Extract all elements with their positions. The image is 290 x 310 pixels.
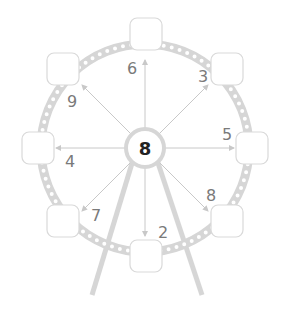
spoke-label-down-left: 7 — [91, 206, 101, 225]
spoke-label-right: 5 — [222, 125, 232, 144]
spoke-label-down-right: 8 — [206, 186, 216, 205]
spoke-label-up-right: 3 — [198, 67, 208, 86]
center-value: 8 — [139, 138, 152, 159]
spoke-label-left: 4 — [65, 152, 75, 171]
spoke-label-up-left: 9 — [67, 92, 77, 111]
spoke-label-down: 2 — [158, 223, 168, 242]
spoke-label-up: 6 — [127, 59, 137, 78]
